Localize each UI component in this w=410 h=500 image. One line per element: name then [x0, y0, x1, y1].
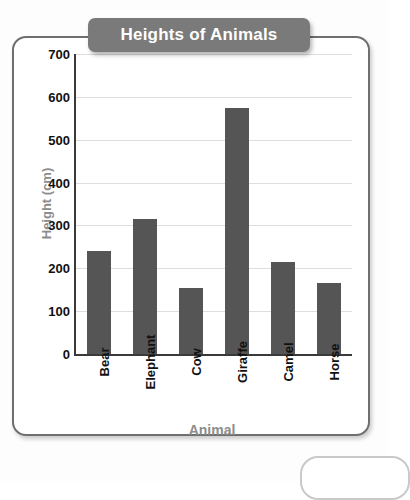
- bar-bear: [87, 251, 111, 354]
- bar-slot: [214, 54, 260, 354]
- chart-title-banner: Heights of Animals: [88, 18, 310, 52]
- x-label-slot: Horse: [304, 358, 350, 428]
- y-axis-tick-label: 300: [48, 218, 70, 233]
- bar-giraffe: [225, 108, 249, 354]
- bar-slot: [168, 54, 214, 354]
- y-axis-tick-label: 200: [48, 261, 70, 276]
- chart-area: Height (cm) 0100200300400500600700 BearE…: [12, 36, 370, 436]
- y-axis-tick-label: 700: [48, 47, 70, 62]
- y-axis-tick-label: 0: [63, 347, 70, 362]
- bar-slot: [306, 54, 352, 354]
- bar-slot: [76, 54, 122, 354]
- x-axis-tick-label-camel: Camel: [281, 342, 296, 381]
- x-label-slot: Elephant: [120, 358, 166, 428]
- x-label-slot: Camel: [258, 358, 304, 428]
- bar-slot: [260, 54, 306, 354]
- x-axis-tick-label-giraffe: Giraffe: [235, 341, 250, 383]
- x-label-slot: Giraffe: [212, 358, 258, 428]
- x-axis-tick-label-cow: Cow: [189, 348, 204, 375]
- y-axis-tick-label: 500: [48, 132, 70, 147]
- y-axis-title: Height (cm): [39, 144, 54, 264]
- bar-camel: [271, 262, 295, 354]
- x-label-slot: Cow: [166, 358, 212, 428]
- y-axis-tick-label: 100: [48, 304, 70, 319]
- bar-slot: [122, 54, 168, 354]
- chart-title: Heights of Animals: [121, 25, 278, 45]
- bar-cow: [179, 288, 203, 354]
- x-axis-tick-label-bear: Bear: [97, 348, 112, 377]
- x-axis-tick-label-horse: Horse: [327, 344, 342, 381]
- bars-group: [76, 54, 352, 354]
- x-label-slot: Bear: [74, 358, 120, 428]
- x-axis-tick-labels: BearElephantCowGiraffeCamelHorse: [74, 358, 350, 428]
- plot-area: 0100200300400500600700: [74, 54, 352, 356]
- x-axis-tick-label-elephant: Elephant: [143, 335, 158, 390]
- x-axis-title: Animal: [74, 422, 350, 438]
- page-edge-artifact: [300, 456, 410, 500]
- y-axis-tick-label: 600: [48, 89, 70, 104]
- y-axis-tick-label: 400: [48, 175, 70, 190]
